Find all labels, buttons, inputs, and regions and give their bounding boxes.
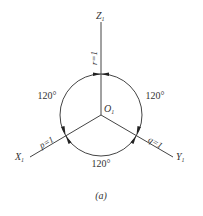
arrow-left-upper-icon bbox=[61, 126, 66, 135]
x-axis-label: X1 bbox=[14, 151, 24, 163]
angle-label-bottom: 120° bbox=[92, 158, 111, 169]
x-scale-label: p=1 bbox=[37, 134, 56, 151]
axonometric-diagram: Z1 X1 Y1 O1 r=1 p=1 q=1 120° 120° 120° (… bbox=[0, 0, 203, 216]
origin-label: O1 bbox=[104, 103, 114, 115]
y-scale-label: q=1 bbox=[146, 134, 164, 150]
arrow-right-upper-icon bbox=[137, 126, 142, 135]
arrow-top-left-icon bbox=[93, 73, 101, 77]
z-axis-label: Z1 bbox=[96, 10, 105, 22]
arrow-top-right-icon bbox=[101, 73, 109, 77]
y-axis-label: Y1 bbox=[176, 151, 185, 163]
angle-label-right: 120° bbox=[146, 90, 165, 101]
y-axis-line bbox=[101, 115, 173, 157]
arrow-left-lower-icon bbox=[66, 135, 72, 144]
figure-caption: (a) bbox=[95, 190, 107, 202]
arrow-right-lower-icon bbox=[131, 135, 137, 144]
angle-label-left: 120° bbox=[38, 90, 57, 101]
z-scale-label: r=1 bbox=[89, 51, 99, 65]
